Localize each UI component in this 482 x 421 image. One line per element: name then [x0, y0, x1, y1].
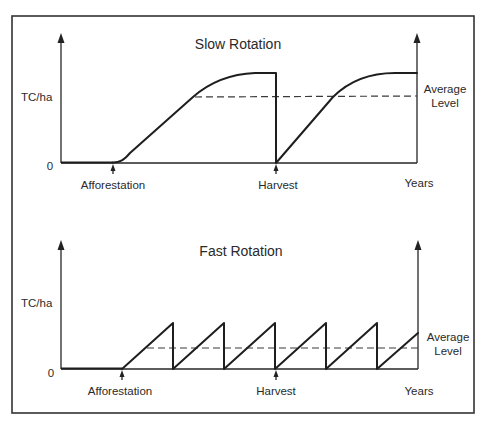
fast-rotation-title: Fast Rotation [199, 243, 282, 259]
fast-rotation-curve [122, 323, 418, 369]
slow-rotation-title: Slow Rotation [195, 36, 281, 52]
arrow-up-icon [111, 164, 116, 171]
arrow-up-icon [58, 33, 65, 43]
rotation-diagram: Slow Rotation TC/ha 0 Afforestation Harv… [0, 0, 482, 421]
arrow-up-icon [120, 370, 125, 377]
afforestation-label: Afforestation [88, 385, 152, 397]
fast-rotation-panel: Fast Rotation TC/ha 0 Afforestation Harv… [21, 240, 469, 397]
arrow-up-icon [414, 33, 421, 43]
arrow-up-icon [274, 164, 279, 171]
slow-rotation-panel: Slow Rotation TC/ha 0 Afforestation Harv… [21, 33, 466, 191]
zero-label: 0 [47, 160, 53, 172]
average-level-label-line2: Level [431, 97, 459, 109]
arrow-up-icon [58, 240, 65, 250]
average-level-line [195, 96, 417, 97]
zero-label: 0 [48, 367, 54, 379]
afforestation-label: Afforestation [81, 179, 145, 191]
slow-rotation-curve [113, 73, 417, 163]
harvest-label: Harvest [256, 385, 296, 397]
years-label: Years [405, 385, 434, 397]
average-level-label-line2: Level [434, 345, 462, 357]
arrow-up-icon [274, 370, 279, 377]
harvest-label: Harvest [258, 179, 298, 191]
figure-frame [12, 16, 474, 413]
average-level-label-line1: Average [424, 83, 467, 95]
years-label: Years [405, 177, 434, 189]
average-level-label-line1: Average [427, 331, 470, 343]
y-axis-label: TC/ha [21, 91, 53, 103]
y-axis-label: TC/ha [21, 297, 53, 309]
arrow-up-icon [415, 240, 422, 250]
